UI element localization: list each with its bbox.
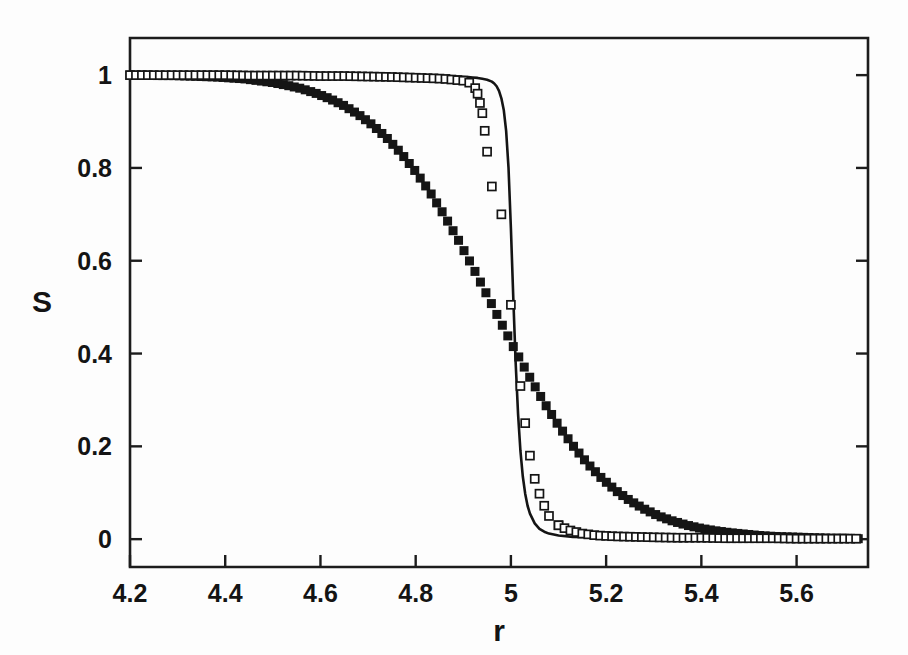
x-tick-label: 5 xyxy=(504,579,518,607)
x-tick-label: 5.2 xyxy=(589,579,624,607)
data-point-open xyxy=(476,99,484,107)
y-tick-label: 1 xyxy=(98,61,112,89)
data-point-open xyxy=(483,148,491,156)
data-point-open xyxy=(488,182,496,190)
data-point-filled xyxy=(454,236,463,245)
plot-canvas: 4.24.44.64.855.25.45.6 00.20.40.60.81 r … xyxy=(0,0,908,655)
data-point-filled xyxy=(481,288,490,297)
data-point-open xyxy=(540,502,548,510)
data-point-open xyxy=(497,210,505,218)
data-point-filled xyxy=(553,419,562,428)
data-point-filled xyxy=(525,373,534,382)
y-tick-label: 0 xyxy=(98,525,112,553)
data-point-filled xyxy=(536,392,545,401)
data-point-filled xyxy=(492,310,501,319)
x-tick-label: 4.2 xyxy=(113,579,148,607)
data-point-open xyxy=(516,382,524,390)
data-point-filled xyxy=(460,246,469,255)
data-point-open xyxy=(507,301,515,309)
data-point-filled xyxy=(531,382,540,391)
x-tick-label: 4.8 xyxy=(398,579,433,607)
data-point-filled xyxy=(443,217,452,226)
x-tick-label: 5.6 xyxy=(779,579,814,607)
y-tick-label: 0.4 xyxy=(77,340,112,368)
data-point-open xyxy=(521,419,529,427)
x-tick-label: 4.4 xyxy=(208,579,243,607)
y-axis-title: S xyxy=(32,285,52,318)
data-point-filled xyxy=(410,166,419,175)
data-point-filled xyxy=(476,278,485,287)
data-point-filled xyxy=(542,401,551,410)
data-point-filled xyxy=(432,198,441,207)
y-axis-ticks xyxy=(130,75,868,539)
data-point-filled xyxy=(416,174,425,183)
data-point-open xyxy=(535,490,543,498)
x-tick-label: 5.4 xyxy=(684,579,719,607)
data-point-filled xyxy=(427,189,436,198)
y-tick-label: 0.2 xyxy=(77,432,112,460)
x-tick-label: 4.6 xyxy=(303,579,338,607)
data-point-filled xyxy=(498,321,507,330)
data-point-filled xyxy=(465,256,474,265)
data-point-filled xyxy=(503,331,512,340)
data-point-open xyxy=(545,512,553,520)
data-point-filled xyxy=(470,267,479,276)
data-point-filled xyxy=(509,342,518,351)
data-point-open xyxy=(481,127,489,135)
axes-frame xyxy=(130,38,868,567)
data-point-open xyxy=(478,109,486,117)
x-axis-title: r xyxy=(493,614,505,647)
data-point-filled xyxy=(547,410,556,419)
y-tick-label: 0.6 xyxy=(77,247,112,275)
y-tick-label: 0.8 xyxy=(77,154,112,182)
plot-frame xyxy=(130,38,868,567)
series-filled-squares xyxy=(126,71,863,544)
data-point-filled xyxy=(438,207,447,216)
data-point-filled xyxy=(487,299,496,308)
data-point-open xyxy=(852,535,860,543)
figure-container: 4.24.44.64.855.25.45.6 00.20.40.60.81 r … xyxy=(0,0,908,655)
y-axis-tick-labels: 00.20.40.60.81 xyxy=(77,61,112,553)
x-axis-tick-labels: 4.24.44.64.855.25.45.6 xyxy=(113,579,814,607)
data-point-open xyxy=(531,475,539,483)
data-point-filled xyxy=(514,352,523,361)
data-point-filled xyxy=(449,226,458,235)
data-point-filled xyxy=(520,363,529,372)
data-point-open xyxy=(526,452,534,460)
data-point-open xyxy=(474,90,482,98)
x-axis-ticks xyxy=(130,555,797,567)
data-point-filled xyxy=(421,181,430,190)
